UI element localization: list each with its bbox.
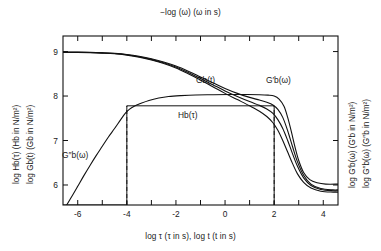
x-tick-label: 0 [223,209,228,219]
y-tick-label: 8 [53,91,58,101]
x-tick-label: 4 [321,209,326,219]
axes-layer [63,36,338,205]
y-tick-label: 9 [53,47,58,57]
curve-g-b-omega- [67,94,338,205]
rheology-chart-figure: −log (ω) (ω in s) log τ (τ in s), log t … [0,0,381,251]
x-tick-label: 2 [272,209,277,219]
plot-canvas: -6-4-20246789 [0,0,381,251]
plot-frame [63,36,338,205]
curve-h-b-tau- [63,106,274,205]
curve-g-b-t- [63,52,338,192]
x-tick-label: -6 [74,209,82,219]
curves-layer [63,52,338,205]
curve-g-b-t-alt [63,52,338,191]
curve-g-b-omega- [63,52,338,190]
y-tick-label: 7 [53,136,58,146]
x-tick-label: -2 [172,209,180,219]
y-tick-label: 6 [53,180,58,190]
x-tick-label: -4 [123,209,131,219]
